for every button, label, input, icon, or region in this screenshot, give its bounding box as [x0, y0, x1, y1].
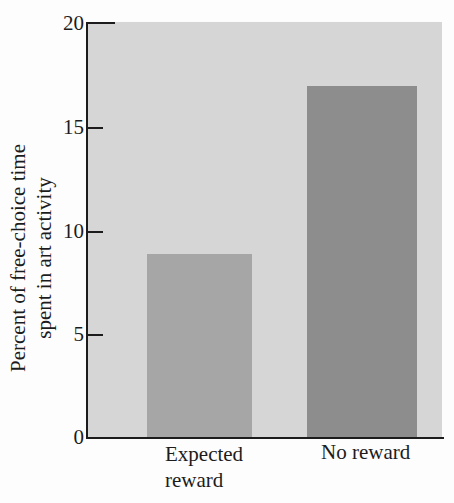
y-tick-10 [88, 231, 103, 233]
x-label-expected-reward: Expectedreward [165, 441, 243, 493]
bar-no-reward [307, 86, 417, 438]
y-tick-20 [88, 22, 115, 24]
bar-chart-figure: 20 15 10 5 0 Expectedreward No reward Pe… [0, 0, 454, 503]
y-axis-title-line1: Percent of free-choice time [6, 144, 30, 372]
y-tick-label-20: 20 [38, 12, 84, 34]
x-label-noreward-line1: No reward [321, 440, 410, 464]
x-label-expected-line1: Expected [165, 442, 243, 466]
y-tick-15 [88, 127, 103, 129]
y-tick-label-0: 0 [38, 426, 84, 448]
x-label-no-reward: No reward [321, 439, 410, 465]
y-tick-5 [88, 334, 103, 336]
y-axis-title-line2: spent in art activity [32, 177, 56, 339]
bar-expected-reward [147, 254, 252, 438]
x-label-expected-line2: reward [165, 468, 223, 492]
y-axis-title: Percent of free-choice timespent in art … [5, 88, 57, 428]
